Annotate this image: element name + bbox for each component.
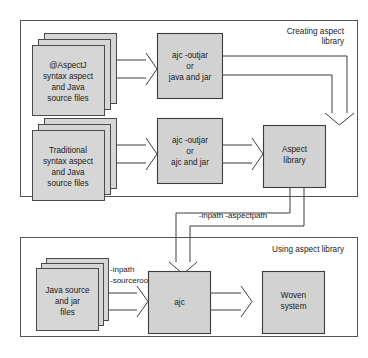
node-woven-system-line2: system <box>281 302 307 311</box>
node-atAspectJ-line1: @AspectJ <box>49 61 86 70</box>
node-atAspectJ-line4: source files <box>47 94 88 103</box>
node-ajc-outjar-java-line1: ajc -outjar <box>172 51 208 60</box>
arrow-traditional-to-ajcajc <box>117 138 158 170</box>
node-ajc-outjar-ajc-line3: ajc and jar <box>171 158 209 167</box>
node-ajc-outjar-java-line3: java and jar <box>168 73 212 82</box>
diagram-canvas: Creating aspect library @AspectJ syntax … <box>0 0 368 358</box>
container-creating-title-line1: Creating aspect <box>287 27 345 36</box>
node-traditional-line4: source files <box>47 179 88 188</box>
workflow-diagram: Creating aspect library @AspectJ syntax … <box>0 0 368 358</box>
node-atAspectJ-sources: @AspectJ syntax aspect and Java source f… <box>33 34 117 116</box>
node-java-sources-line2: and jar <box>55 297 80 306</box>
container-using-title: Using aspect library <box>272 245 345 254</box>
arrow-ajc-to-woven-system <box>211 286 253 317</box>
node-atAspectJ-line2: syntax aspect <box>43 72 94 81</box>
node-woven-system-line1: Woven <box>281 291 307 300</box>
node-aspect-library-line2: library <box>283 156 306 165</box>
node-java-sources-line1: Java source <box>45 286 90 295</box>
node-traditional-line1: Traditional <box>49 146 87 155</box>
arrow-atAspectJ-to-ajcjava <box>117 53 158 85</box>
edge-label-inpath: -inpath <box>110 265 134 274</box>
node-ajc: ajc <box>149 272 211 334</box>
arrow-aspect-library-to-ajc <box>169 188 304 275</box>
arrow-ajcjava-to-aspect-library <box>223 56 355 125</box>
node-java-sources-line3: files <box>60 308 75 317</box>
edge-label-inpath-aspectpath: -inpath -aspectpath <box>199 211 268 220</box>
node-atAspectJ-line3: and Java <box>51 83 85 92</box>
node-traditional-line3: and Java <box>51 168 85 177</box>
node-woven-system: Woven system <box>263 272 325 334</box>
node-ajc-outjar-java: ajc -outjar or java and jar <box>158 34 223 99</box>
node-java-sources: Java source and jar files <box>37 259 109 331</box>
node-ajc-label: ajc <box>174 298 184 307</box>
container-creating-title-line2: library <box>322 37 345 46</box>
node-ajc-outjar-java-line2: or <box>186 62 194 71</box>
node-traditional-line2: syntax aspect <box>43 157 94 166</box>
node-traditional-sources: Traditional syntax aspect and Java sourc… <box>33 119 117 201</box>
arrow-java-sources-to-ajc <box>109 286 149 317</box>
node-aspect-library: Aspect library <box>264 126 326 188</box>
node-aspect-library-line1: Aspect <box>282 145 308 154</box>
node-ajc-outjar-ajc-line1: ajc -outjar <box>172 136 208 145</box>
arrow-ajcajc-to-aspect-library <box>223 138 264 170</box>
edge-label-sourceroot: -sourceroot <box>110 276 151 285</box>
node-ajc-outjar-ajc-line2: or <box>186 147 194 156</box>
node-ajc-outjar-ajc: ajc -outjar or ajc and jar <box>158 119 223 184</box>
